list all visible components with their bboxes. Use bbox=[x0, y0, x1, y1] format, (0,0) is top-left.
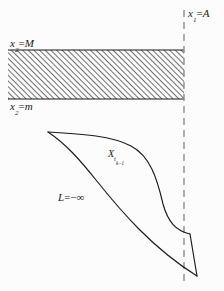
label-region-sub: tk−1 bbox=[114, 155, 124, 162]
math-figure: x1=A x2=M x2=m Xtk−1 L=−∞ bbox=[0, 0, 224, 291]
label-region-subsub: k−1 bbox=[116, 160, 124, 166]
label-x1-equals-A: x1=A bbox=[188, 8, 209, 19]
label-x2m-sub: 2 bbox=[15, 109, 19, 117]
region-closing-edge bbox=[190, 234, 197, 276]
label-x2m-value: m bbox=[25, 100, 33, 112]
label-x1-value: A bbox=[203, 7, 210, 19]
label-L-value: −∞ bbox=[70, 191, 84, 203]
region-upper-boundary bbox=[48, 132, 190, 234]
label-region-X: Xtk−1 bbox=[108, 149, 124, 160]
hatched-band bbox=[8, 50, 184, 99]
label-x1-sub: 1 bbox=[193, 16, 197, 24]
label-x2-equals-M: x2=M bbox=[10, 38, 34, 49]
label-x2-equals-m: x2=m bbox=[10, 101, 33, 112]
label-x2M-sub: 2 bbox=[15, 46, 19, 54]
label-L-equals-neg-infinity: L=−∞ bbox=[58, 192, 84, 203]
label-x2M-value: M bbox=[25, 37, 34, 49]
